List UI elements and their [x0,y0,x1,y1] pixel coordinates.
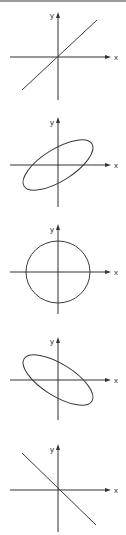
y-arrow-icon [56,224,60,230]
y-arrow-icon [56,337,60,343]
y-arrow-icon [56,117,60,123]
plot-panel-line-negative: x y [0,420,126,535]
axes [10,444,111,532]
x-arrow-icon [105,270,111,274]
x-axis-label: x [114,161,118,170]
axes [10,117,111,207]
line-negative-plot: x y [0,420,126,535]
plot-panel-line-positive: x y [0,0,126,105]
plot-panel-ellipse-positive: x y [0,105,126,210]
x-arrow-icon [105,163,111,167]
ellipse-negative-plot: x y [0,315,126,420]
axes [10,224,111,314]
plot-panel-circle: x y [0,210,126,315]
y-axis-label: y [50,445,54,454]
plot-panel-ellipse-negative: x y [0,315,126,420]
line-positive-plot: x y [0,0,126,105]
y-axis-label: y [50,225,54,234]
circle-plot: x y [0,210,126,315]
y-axis-label: y [50,337,54,346]
x-arrow-icon [105,488,111,492]
y-axis-label: y [50,11,54,20]
x-axis-label: x [114,486,118,495]
ellipse-positive-plot: x y [0,105,126,210]
y-axis-label: y [50,118,54,127]
x-axis-label: x [114,376,118,385]
x-axis-label: x [114,53,118,62]
x-arrow-icon [105,55,111,59]
trace-line [22,20,97,90]
x-arrow-icon [105,378,111,382]
trace-line [22,453,96,525]
y-arrow-icon [56,444,60,450]
axes [10,337,111,420]
x-axis-label: x [114,268,118,277]
y-arrow-icon [56,12,60,18]
